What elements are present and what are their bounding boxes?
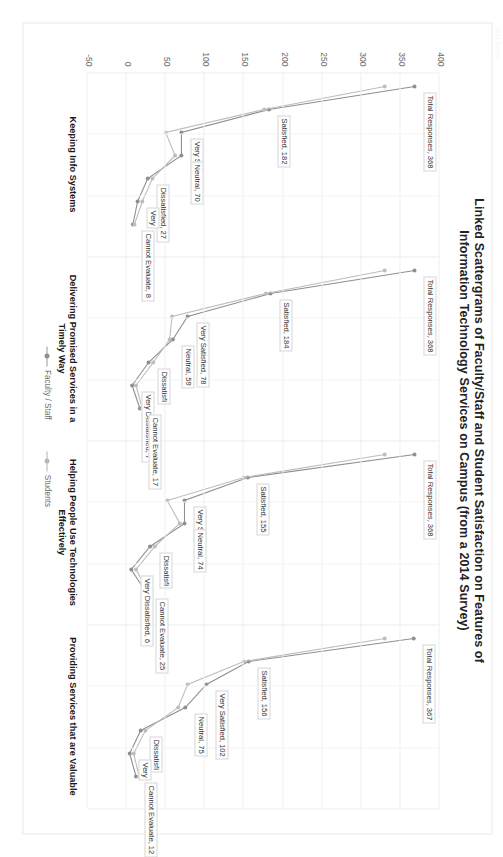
data-point-label: Very: [138, 759, 151, 780]
legend-label: Students: [42, 474, 51, 506]
title-line-1: Linked Scattergrams of Faculty/Staff and…: [471, 198, 485, 663]
panel-separator: [87, 440, 439, 441]
data-point-marker: [173, 153, 177, 157]
panel-caption: Helping People Use TechnologiesEffective…: [55, 440, 77, 624]
data-point-label: Neutral, 75: [194, 713, 207, 756]
data-point-label: Cannot Evaluate, 17: [148, 414, 161, 489]
gridline-vertical: [87, 379, 439, 380]
data-point-label: Neutral, 70: [190, 161, 203, 204]
y-axis-tick-label: 400: [435, 32, 445, 66]
panel-caption: Delivering Promised Services in aTimely …: [55, 256, 77, 440]
page-title: Linked Scattergrams of Faculty/Staff and…: [455, 60, 485, 800]
data-point-label: Satisfied, 184: [279, 299, 292, 351]
gridline-vertical: [87, 317, 439, 318]
legend-swatch-icon: [46, 451, 47, 471]
panel-caption: Providing Services that are Valuable: [66, 624, 77, 808]
data-point-label: Total Responses, 368: [423, 92, 436, 171]
legend-item[interactable]: Faculty / Staff: [42, 346, 51, 419]
data-point-label: Satisfied, 182: [277, 115, 290, 167]
data-point-label: Satisfied, 156: [257, 667, 270, 719]
y-axis-tick-label: -50: [83, 32, 93, 66]
data-point-marker: [134, 774, 138, 778]
data-point-marker: [412, 452, 416, 456]
data-point-label: Very Satisfied, 78: [196, 322, 209, 387]
data-point-marker: [412, 84, 416, 88]
panel-caption-line-2: Effectively: [55, 440, 66, 624]
data-point-label: Satisfied, 155: [256, 483, 269, 535]
gridline-vertical: [87, 195, 439, 196]
series-line: [131, 454, 414, 592]
data-point-label: Very Satisfied, 102: [215, 690, 228, 759]
y-axis-tick-label: 100: [200, 32, 210, 66]
corner-stamp: 2014 Survey: [494, 27, 500, 58]
panel-caption-line-2: Timely Way: [55, 256, 66, 440]
data-point-marker: [382, 452, 386, 456]
data-point-marker: [412, 268, 416, 272]
data-point-marker: [145, 176, 149, 180]
y-axis-tick-label: 300: [357, 32, 367, 66]
data-point-marker: [382, 636, 386, 640]
data-point-label: Cannot Evaluate, 12: [145, 782, 158, 857]
chart-legend: Faculty / StaffStudents: [42, 0, 51, 853]
data-point-label: Very: [146, 207, 159, 228]
data-point-label: Dissatisfi: [157, 368, 170, 404]
data-point-marker: [146, 360, 150, 364]
data-point-label: Total Responses, 368: [423, 276, 436, 355]
y-axis-tick-label: 50: [161, 32, 171, 66]
data-point-label: Neutral, 74: [193, 529, 206, 572]
data-point-marker: [148, 544, 152, 548]
data-point-label: Cannot Evaluate, 25: [155, 598, 168, 673]
y-axis-tick-label: 0: [122, 32, 132, 66]
series-line: [134, 86, 384, 224]
y-axis-tick-label: 150: [239, 32, 249, 66]
data-point-label: Dissatisfi: [159, 552, 172, 588]
panel-separator: [87, 72, 439, 73]
series-line: [129, 638, 413, 776]
data-point-label: Cannot Evaluate, 8: [141, 230, 154, 301]
data-point-label: Neutral, 59: [181, 345, 194, 388]
gridline-vertical: [87, 563, 439, 564]
panel-caption-line-1: Delivering Promised Services in a: [66, 256, 77, 440]
gridline-vertical: [87, 747, 439, 748]
legend-label: Faculty / Staff: [42, 369, 51, 419]
panel-caption: Keeping Info Systems: [66, 72, 77, 256]
data-point-marker: [167, 337, 171, 341]
data-point-marker: [138, 728, 142, 732]
y-axis-tick-label: 200: [279, 32, 289, 66]
data-point-marker: [411, 636, 415, 640]
panel-separator: [87, 808, 439, 809]
panel-caption-line-1: Providing Services that are Valuable: [66, 624, 77, 808]
data-point-label: Very Dissatisfied, 6: [140, 575, 153, 646]
panel-caption-line-1: Keeping Info Systems: [66, 72, 77, 256]
data-point-label: Total Responses, 367: [422, 644, 435, 723]
data-point-marker: [177, 521, 181, 525]
title-line-2: Information Technology Services on Campu…: [455, 60, 470, 800]
panel-caption-line-1: Helping People Use Technologies: [66, 440, 77, 624]
panel-separator: [87, 256, 439, 257]
legend-swatch-icon: [46, 346, 47, 366]
data-point-label: Total Responses, 368: [423, 460, 436, 539]
y-axis-tick-label: 250: [318, 32, 328, 66]
legend-item[interactable]: Students: [42, 451, 51, 506]
y-axis-tick-label: 350: [396, 32, 406, 66]
gridline-vertical: [87, 133, 439, 134]
